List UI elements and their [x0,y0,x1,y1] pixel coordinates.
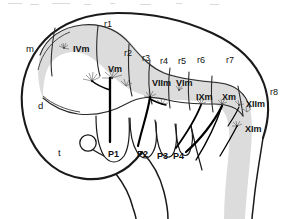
nucleus-label-Vm: Vm [108,65,122,74]
arch-posterior-cleft [191,126,202,170]
figure-canvas: m d t r1 r2 r3 r4 r5 r6 r7 r8 IVm Vm VII… [0,0,284,219]
trunk-outline-ventral [116,174,136,219]
trunk-outline-lower [142,152,168,219]
rhombomere-label-r5: r5 [178,57,186,66]
scan-artifacts [8,3,219,5]
arch-label-P2: P2 [137,150,148,159]
rhombomere-label-r2: r2 [124,49,132,58]
nucleus-label-XIIm: XIIm [246,100,265,109]
rhombomere-label-r7: r7 [226,56,234,65]
otic-vesicle [80,135,96,151]
nerve-V-branch [92,81,110,90]
rhombomere-label-r8: r8 [270,88,278,97]
arch-label-P3: P3 [157,152,168,161]
rhombomere-label-r4: r4 [160,57,168,66]
nucleus-label-Xm: Xm [222,93,236,102]
rhombomere-label-r1: r1 [104,20,112,29]
rhombomere-label-r3: r3 [142,54,150,63]
nucleus-label-IVm: IVm [73,45,90,54]
nucleus-label-VIm: VIm [176,79,193,88]
region-label-d: d [38,101,43,111]
arch-label-P4: P4 [173,152,184,161]
arch-label-P1: P1 [108,150,119,159]
nerve-VII-root [138,97,150,146]
nucleus-label-XIm: XIm [245,125,262,134]
rhombomere-label-r6: r6 [197,56,205,65]
region-label-m: m [26,44,34,54]
nucleus-label-IXm: IXm [196,93,213,102]
nucleus-label-VIIm: VIIm [152,79,171,88]
region-label-t: t [58,148,61,158]
trunk-outline-dorsal [252,138,263,219]
